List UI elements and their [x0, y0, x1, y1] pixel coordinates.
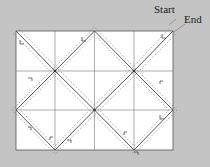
start-label: Start [154, 4, 175, 15]
label-leaders [169, 19, 185, 32]
grid-figure [0, 0, 210, 167]
end-label: End [184, 14, 202, 25]
